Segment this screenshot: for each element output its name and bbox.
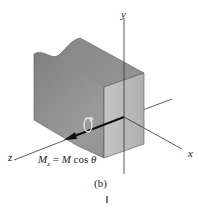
equation-rhs-theta: θ: [91, 153, 96, 165]
moment-equation: Mz = M cos θ: [38, 153, 96, 168]
figure-caption: (b): [94, 177, 107, 189]
equation-lhs-subscript: z: [47, 160, 50, 168]
equation-equals: =: [53, 153, 59, 165]
equation-lhs-symbol: M: [38, 153, 47, 165]
equation-rhs-m: M: [62, 153, 71, 165]
x-axis-label: x: [188, 148, 193, 159]
y-axis-label: y: [121, 9, 126, 20]
equation-rhs-cos: cos: [74, 153, 89, 165]
z-axis-label: z: [8, 152, 12, 163]
